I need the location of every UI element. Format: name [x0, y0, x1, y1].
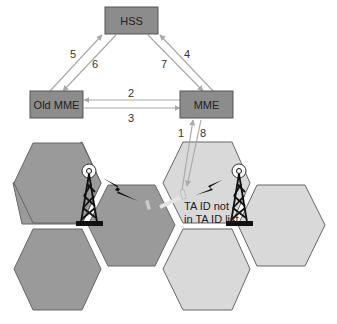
step-label-4: 4 [184, 48, 190, 60]
step-label-1: 1 [178, 127, 184, 139]
step-label-5: 5 [70, 48, 76, 60]
node-old-mme: Old MME [30, 91, 83, 118]
cells [14, 142, 325, 310]
step-label-3: 3 [128, 112, 134, 124]
step-label-2: 2 [128, 87, 134, 99]
node-hss-label: HSS [120, 15, 143, 27]
node-old-mme-label: Old MME [34, 99, 80, 111]
node-hss: HSS [105, 7, 158, 34]
node-mme: MME [180, 91, 233, 118]
note-ta-id-line2: in TA ID list [184, 213, 239, 225]
cell-hex-old-2 [14, 229, 101, 310]
step-label-8: 8 [200, 127, 206, 139]
cell-hex-new-3 [163, 229, 250, 310]
arrow-step-7 [148, 35, 203, 91]
step-label-7: 7 [161, 58, 167, 70]
step-label-6: 6 [92, 58, 98, 70]
note-ta-id-line1: TA ID not [184, 200, 229, 212]
node-mme-label: MME [194, 99, 220, 111]
tracking-area-update-diagram: HSS Old MME MME 5 6 7 4 2 3 1 8 [0, 0, 337, 324]
arrow-step-4 [160, 35, 213, 91]
arrow-step-6 [63, 35, 116, 91]
